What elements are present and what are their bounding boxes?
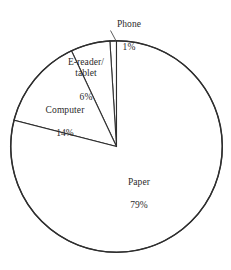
slice-label-paper-name: Paper [104,177,174,188]
slice-label-paper-value: 79% [104,200,174,211]
slice-label-computer-value: 14% [27,128,103,139]
slice-label-paper: Paper 79% [104,166,174,222]
slice-label-computer-name: Computer [27,105,103,116]
slice-label-phone-name: Phone [96,19,162,30]
pie-chart: Phone 1% E-reader/ tablet 6% Computer 14… [0,0,231,270]
slice-label-computer: Computer 14% [27,94,103,150]
slice-label-ereader-name: E-reader/ tablet [58,57,114,79]
